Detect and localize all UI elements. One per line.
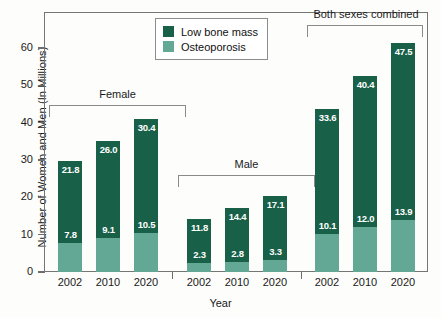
bar-segment-osteoporosis	[96, 238, 120, 272]
bar: 40.412.0	[353, 76, 377, 272]
legend-label: Osteoporosis	[181, 41, 246, 53]
x-tick-label: 2020	[380, 276, 426, 288]
bar: 47.513.9	[391, 43, 415, 272]
y-tick-label: 40	[3, 116, 33, 128]
bar: 33.610.1	[315, 109, 339, 272]
legend-swatch-icon	[163, 41, 174, 52]
legend-label: Low bone mass	[181, 26, 258, 38]
group-label: Female	[49, 88, 186, 100]
group-bracket	[178, 175, 315, 187]
bar-segment-osteoporosis	[58, 243, 82, 272]
bar: 17.13.3	[263, 196, 287, 272]
y-tick-label: 20	[3, 190, 33, 202]
x-axis-title: Year	[0, 297, 441, 309]
bar-segment-low-bone-mass: 47.5	[391, 43, 415, 220]
y-tick-label: 10	[3, 228, 33, 240]
bar-segment-osteoporosis	[391, 220, 415, 272]
chart-figure: Number of Women and Men (In Millions) Ye…	[0, 0, 441, 318]
bar-value-label: 13.9	[392, 207, 415, 217]
y-tick-label: 30	[3, 153, 33, 165]
bar-value-label: 14.4	[226, 212, 249, 222]
group-label: Both sexes combined	[296, 8, 436, 20]
group-label: Male	[178, 158, 315, 170]
bar-value-label: 3.3	[264, 247, 287, 257]
bar-value-label: 10.5	[135, 220, 158, 230]
bar: 21.87.8	[58, 161, 82, 272]
legend: Low bone massOsteoporosis	[155, 18, 268, 60]
bar-value-label: 11.8	[188, 223, 211, 233]
bar-segment-osteoporosis	[353, 227, 377, 272]
bar-value-label: 17.1	[264, 200, 287, 210]
bar-segment-low-bone-mass: 33.6	[315, 109, 339, 234]
group-bracket	[49, 105, 186, 117]
bar-value-label: 30.4	[135, 123, 158, 133]
bar-segment-low-bone-mass: 30.4	[134, 119, 158, 232]
bar-segment-osteoporosis	[225, 262, 249, 272]
bar-value-label: 2.8	[226, 249, 249, 259]
bar-value-label: 40.4	[354, 80, 377, 90]
group-separator-tick	[172, 271, 173, 279]
bar-value-label: 26.0	[97, 145, 120, 155]
group-bracket	[307, 25, 423, 37]
x-tick-label: 2020	[123, 276, 169, 288]
bar-value-label: 12.0	[354, 214, 377, 224]
bar: 30.410.5	[134, 119, 158, 272]
bar-segment-osteoporosis	[134, 233, 158, 272]
bar: 14.42.8	[225, 208, 249, 272]
legend-swatch-icon	[163, 26, 174, 37]
bar-segment-low-bone-mass: 40.4	[353, 76, 377, 227]
bar-value-label: 9.1	[97, 225, 120, 235]
y-tick-label: 0	[3, 265, 33, 277]
bar-segment-osteoporosis	[263, 260, 287, 272]
y-tick-label: 60	[3, 41, 33, 53]
y-tick-label: 50	[3, 78, 33, 90]
bar-segment-osteoporosis	[187, 263, 211, 272]
bar: 26.09.1	[96, 141, 120, 272]
bar-value-label: 21.8	[59, 165, 82, 175]
bar-value-label: 10.1	[316, 221, 339, 231]
bar: 11.82.3	[187, 219, 211, 272]
legend-item: Osteoporosis	[163, 39, 258, 54]
x-tick-label: 2020	[252, 276, 298, 288]
bar-value-label: 2.3	[188, 250, 211, 260]
bar-value-label: 33.6	[316, 113, 339, 123]
group-separator-tick	[301, 271, 302, 279]
bar-segment-osteoporosis	[315, 234, 339, 272]
legend-item: Low bone mass	[163, 24, 258, 39]
bar-value-label: 7.8	[59, 230, 82, 240]
bar-value-label: 47.5	[392, 47, 415, 57]
